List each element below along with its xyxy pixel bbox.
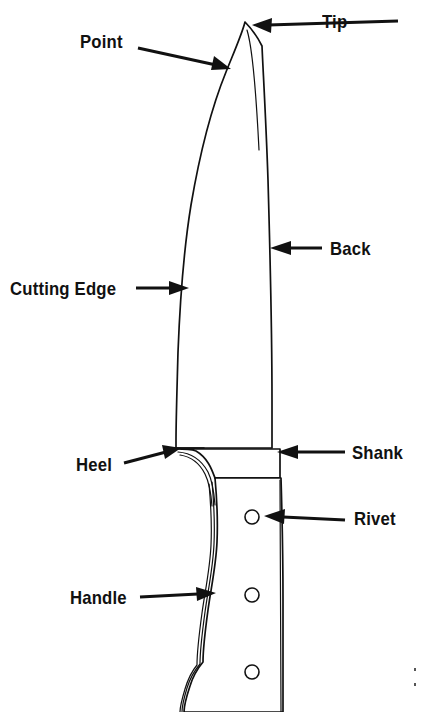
knife-blade-group [176,22,272,448]
shank-outline [176,449,280,478]
knife-parts-diagram: Tip Point Back Cutting Edge Heel Shank R… [0,0,422,712]
label-back: Back [330,239,371,258]
label-cutting-edge: Cutting Edge [10,279,116,298]
rivet-1 [245,510,259,524]
label-heel: Heel [76,455,112,474]
rivet-2 [245,588,259,602]
scan-specks [414,668,416,686]
arrow-point [138,48,231,70]
arrow-back [270,241,322,255]
label-tip: Tip [322,12,347,31]
rivet-3 [245,665,259,679]
label-shank: Shank [352,443,403,462]
arrow-heel [124,445,181,463]
arrow-shank [277,445,345,459]
blade-outline [176,22,272,448]
label-handle: Handle [70,588,127,607]
label-rivet: Rivet [354,509,396,528]
label-point: Point [80,32,123,51]
knife-illustration [0,0,422,712]
